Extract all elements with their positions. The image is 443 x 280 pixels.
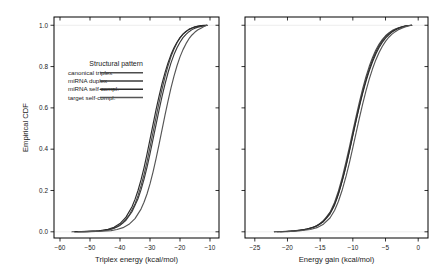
x-tick-label: −5 xyxy=(382,244,390,251)
panel-left: −60−50−40−30−20−100.00.20.40.60.81.0Trip… xyxy=(21,17,219,264)
x-tick-label: −60 xyxy=(55,244,66,251)
legend-item[interactable]: canonical triplex xyxy=(68,69,143,76)
x-tick-label: 0 xyxy=(416,244,420,251)
ecdf-curve-0 xyxy=(274,25,411,232)
ecdf-figure: −60−50−40−30−20−100.00.20.40.60.81.0Trip… xyxy=(0,0,443,280)
legend: Structural patterncanonical triplexmiRNA… xyxy=(68,60,143,101)
y-tick-label: 1.0 xyxy=(39,22,48,29)
panel-frame xyxy=(54,17,219,238)
ecdf-curve-0 xyxy=(72,25,207,232)
legend-item[interactable]: target self-compl. xyxy=(68,94,143,101)
x-tick-label: −10 xyxy=(205,244,216,251)
x-tick-label: −40 xyxy=(115,244,126,251)
plot-canvas: −60−50−40−30−20−100.00.20.40.60.81.0Trip… xyxy=(0,0,443,280)
x-tick-label: −20 xyxy=(175,244,186,251)
x-tick-label: −25 xyxy=(249,244,260,251)
ecdf-curve-1 xyxy=(278,25,412,232)
y-tick-label: 0.0 xyxy=(39,228,48,235)
y-tick-label: 0.2 xyxy=(39,187,48,194)
legend-title: Structural pattern xyxy=(89,60,143,68)
y-tick-label: 0.4 xyxy=(39,145,48,152)
x-tick-label: −30 xyxy=(145,244,156,251)
x-axis-title: Triplex energy (kcal/mol) xyxy=(95,255,178,264)
x-tick-label: −50 xyxy=(85,244,96,251)
ecdf-curve-1 xyxy=(75,25,207,232)
y-tick-label: 0.8 xyxy=(39,63,48,70)
ecdf-curve-2 xyxy=(281,25,412,232)
x-tick-label: −10 xyxy=(347,244,358,251)
x-axis-title: Energy gain (kcal/mol) xyxy=(299,255,375,264)
ecdf-curve-3 xyxy=(78,25,207,232)
legend-item[interactable]: miRNA duplex xyxy=(68,77,143,84)
ecdf-curve-3 xyxy=(274,25,411,232)
x-tick-label: −20 xyxy=(282,244,293,251)
ecdf-curve-2 xyxy=(75,25,207,232)
legend-item[interactable]: miRNA self-compl. xyxy=(68,85,143,92)
panel-right: −25−20−15−10−50Energy gain (kcal/mol) xyxy=(242,17,429,264)
y-axis-title: Empirical CDF xyxy=(21,103,30,152)
y-tick-label: 0.6 xyxy=(39,104,48,111)
x-tick-label: −15 xyxy=(315,244,326,251)
